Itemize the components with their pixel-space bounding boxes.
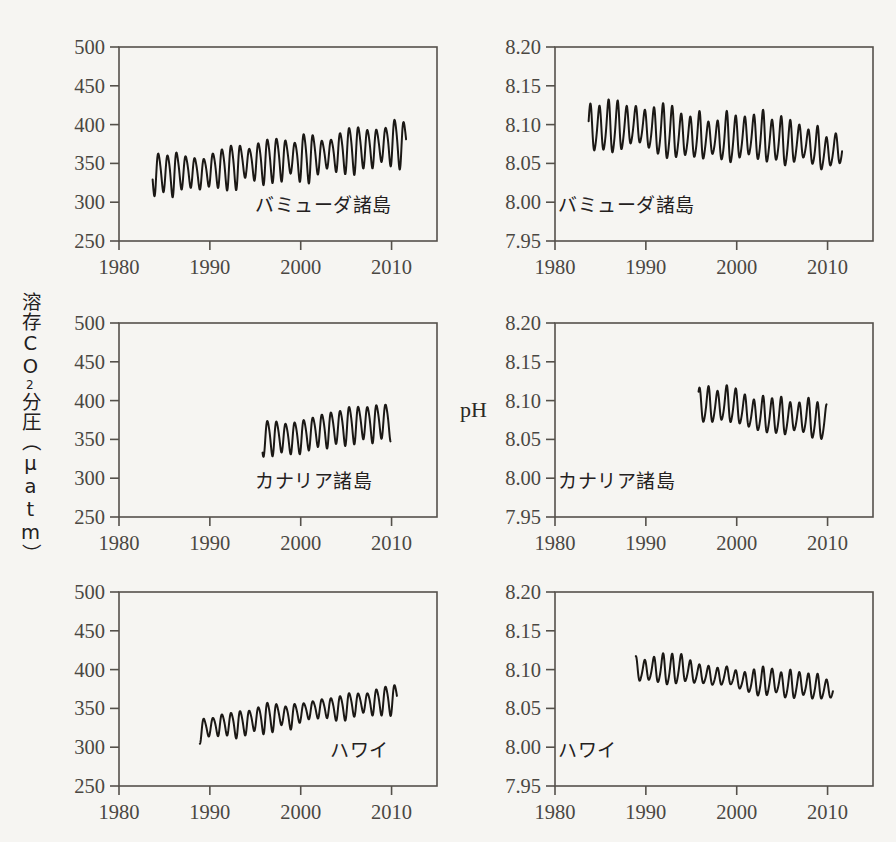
plot-hawaii-ph: 7.958.008.058.108.158.201980199020002010 (436, 545, 896, 835)
panel-hawaii-ph: 7.958.008.058.108.158.201980199020002010… (436, 545, 896, 835)
panel-annotation-bermuda-pco2: バミューダ諸島 (255, 190, 392, 217)
x-tick-label: 2000 (280, 801, 321, 823)
figure-root: 溶存CO2分圧（μatm） pH 25030035040045050019801… (0, 0, 896, 842)
x-tick-label: 2010 (371, 801, 412, 823)
y-tick-label: 8.20 (505, 581, 541, 603)
y-tick-label: 450 (74, 351, 105, 373)
y-tick-label: 8.10 (505, 390, 541, 412)
x-tick-label: 1990 (189, 801, 230, 823)
y-tick-label: 250 (74, 775, 105, 797)
y-tick-label: 250 (74, 230, 105, 252)
plot-hawaii-pco2: 2503003504004505001980199020002010 (0, 545, 460, 835)
panel-annotation-hawaii-pco2: ハワイ (330, 735, 389, 762)
y-tick-label: 500 (74, 312, 105, 334)
panel-annotation-canary-ph: カナリア諸島 (558, 466, 675, 493)
data-curve (153, 120, 406, 197)
y-tick-label: 400 (74, 390, 105, 412)
y-tick-label: 8.15 (505, 620, 541, 642)
y-tick-label: 350 (74, 152, 105, 174)
panel-canary-ph: 7.958.008.058.108.158.201980199020002010… (436, 276, 896, 566)
y-tick-label: 450 (74, 620, 105, 642)
x-tick-label: 2010 (807, 801, 848, 823)
y-tick-label: 350 (74, 697, 105, 719)
y-tick-label: 450 (74, 75, 105, 97)
panel-annotation-canary-pco2: カナリア諸島 (255, 466, 372, 493)
panel-annotation-hawaii-ph: ハワイ (558, 735, 617, 762)
y-tick-label: 400 (74, 114, 105, 136)
x-tick-label: 2000 (716, 256, 757, 278)
x-tick-label: 2010 (807, 256, 848, 278)
data-curve (699, 385, 827, 439)
panel-bermuda-ph: 7.958.008.058.108.158.201980199020002010… (436, 0, 896, 290)
data-curve (263, 405, 391, 457)
y-tick-label: 500 (74, 36, 105, 58)
y-tick-label: 8.05 (505, 428, 541, 450)
x-tick-label: 2000 (716, 801, 757, 823)
y-tick-label: 8.10 (505, 114, 541, 136)
panel-bermuda-pco2: 2503003504004505001980199020002010 バミューダ… (0, 0, 460, 290)
y-tick-label: 8.20 (505, 312, 541, 334)
y-tick-label: 300 (74, 191, 105, 213)
y-tick-label: 8.00 (505, 467, 541, 489)
x-tick-label: 2010 (371, 256, 412, 278)
plot-canary-ph: 7.958.008.058.108.158.201980199020002010 (436, 276, 896, 566)
x-tick-label: 1980 (99, 256, 140, 278)
x-tick-label: 2000 (280, 256, 321, 278)
y-tick-label: 8.15 (505, 75, 541, 97)
y-tick-label: 8.20 (505, 36, 541, 58)
y-tick-label: 500 (74, 581, 105, 603)
panel-canary-pco2: 2503003504004505001980199020002010 カナリア諸… (0, 276, 460, 566)
x-tick-label: 1980 (99, 801, 140, 823)
plot-canary-pco2: 2503003504004505001980199020002010 (0, 276, 460, 566)
x-tick-label: 1990 (625, 256, 666, 278)
plot-bermuda-ph: 7.958.008.058.108.158.201980199020002010 (436, 0, 896, 290)
y-tick-label: 8.00 (505, 736, 541, 758)
y-tick-label: 350 (74, 428, 105, 450)
panel-hawaii-pco2: 2503003504004505001980199020002010 ハワイ (0, 545, 460, 835)
y-tick-label: 300 (74, 467, 105, 489)
y-tick-label: 7.95 (505, 230, 541, 252)
y-tick-label: 300 (74, 736, 105, 758)
y-tick-label: 8.15 (505, 351, 541, 373)
plot-bermuda-pco2: 2503003504004505001980199020002010 (0, 0, 460, 290)
y-tick-label: 7.95 (505, 775, 541, 797)
panel-annotation-bermuda-ph: バミューダ諸島 (558, 190, 695, 217)
data-curve (589, 99, 842, 169)
y-tick-label: 400 (74, 659, 105, 681)
plot-frame (119, 592, 437, 786)
y-tick-label: 8.05 (505, 152, 541, 174)
y-tick-label: 250 (74, 506, 105, 528)
y-tick-label: 8.10 (505, 659, 541, 681)
y-tick-label: 8.05 (505, 697, 541, 719)
data-curve (636, 653, 833, 698)
y-tick-label: 7.95 (505, 506, 541, 528)
x-tick-label: 1980 (535, 256, 576, 278)
y-tick-label: 8.00 (505, 191, 541, 213)
x-tick-label: 1990 (189, 256, 230, 278)
x-tick-label: 1980 (535, 801, 576, 823)
x-tick-label: 1990 (625, 801, 666, 823)
